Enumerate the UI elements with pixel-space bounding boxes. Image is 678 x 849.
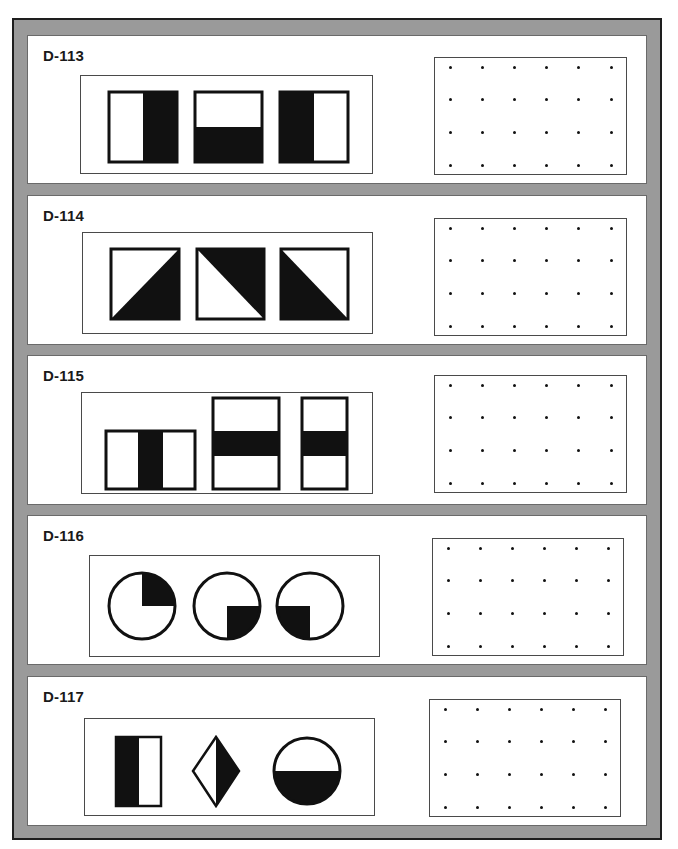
- grid-dot: [610, 325, 613, 328]
- grid-dot: [545, 131, 548, 134]
- tall-rect-horizontal-center-stripe-icon: [213, 398, 279, 489]
- grid-dot: [447, 612, 450, 615]
- grid-dot: [513, 292, 516, 295]
- grid-dot: [444, 773, 447, 776]
- grid-dot: [577, 482, 580, 485]
- grid-dot: [513, 384, 516, 387]
- grid-dot: [545, 66, 548, 69]
- square-lower-left-triangle-black-icon: [281, 249, 348, 319]
- model-shapes: [90, 556, 381, 658]
- dot-grid[interactable]: [429, 699, 621, 817]
- grid-dot: [449, 325, 452, 328]
- grid-dot: [449, 292, 452, 295]
- model-shapes: [83, 233, 374, 335]
- grid-dot: [476, 773, 479, 776]
- grid-dot: [481, 292, 484, 295]
- model-figure-box: [84, 718, 375, 816]
- grid-dot: [449, 259, 452, 262]
- grid-dot: [447, 547, 450, 550]
- grid-dot: [604, 773, 607, 776]
- rect-right-half-black-icon: [109, 92, 177, 162]
- grid-dot: [545, 292, 548, 295]
- exercise-label: D-114: [43, 207, 84, 224]
- grid-dot: [610, 416, 613, 419]
- dot-grid[interactable]: [434, 375, 627, 493]
- grid-dot: [447, 645, 450, 648]
- grid-dot: [577, 384, 580, 387]
- grid-dot: [511, 645, 514, 648]
- model-shapes: [85, 719, 376, 817]
- model-figure-box: [81, 392, 373, 494]
- grid-dot: [479, 645, 482, 648]
- grid-dot: [575, 612, 578, 615]
- grid-dot: [513, 66, 516, 69]
- grid-dot: [540, 740, 543, 743]
- grid-dot: [610, 259, 613, 262]
- exercise-panel-d116: D-116: [27, 515, 647, 665]
- grid-dot: [508, 708, 511, 711]
- circle-top-right-quadrant-black-icon: [109, 573, 175, 639]
- grid-dot: [604, 708, 607, 711]
- grid-dot: [540, 806, 543, 809]
- grid-dot: [449, 131, 452, 134]
- grid-dot: [508, 740, 511, 743]
- grid-dot: [545, 482, 548, 485]
- grid-dot: [513, 449, 516, 452]
- circle-bottom-half-black-icon: [274, 738, 340, 804]
- grid-dot: [610, 164, 613, 167]
- grid-dot: [543, 579, 546, 582]
- grid-dot: [511, 579, 514, 582]
- grid-dot: [540, 773, 543, 776]
- grid-dot: [481, 66, 484, 69]
- wide-rect-vertical-center-stripe-icon: [106, 431, 195, 489]
- grid-dot: [508, 773, 511, 776]
- grid-dot: [575, 579, 578, 582]
- grid-dot: [545, 164, 548, 167]
- grid-dot: [610, 227, 613, 230]
- exercise-panel-d115: D-115: [27, 355, 647, 505]
- grid-dot: [511, 612, 514, 615]
- grid-dot: [481, 98, 484, 101]
- grid-dot: [577, 325, 580, 328]
- grid-dot: [545, 98, 548, 101]
- grid-dot: [604, 806, 607, 809]
- grid-dot: [575, 547, 578, 550]
- narrow-rect-horizontal-center-stripe-icon: [302, 398, 347, 489]
- grid-dot: [476, 806, 479, 809]
- grid-dot: [572, 773, 575, 776]
- grid-dot: [449, 227, 452, 230]
- dot-grid[interactable]: [432, 538, 624, 656]
- grid-dot: [540, 708, 543, 711]
- circle-bottom-right-quadrant-black-icon: [194, 573, 260, 639]
- grid-dot: [577, 292, 580, 295]
- grid-dot: [545, 449, 548, 452]
- grid-dot: [577, 66, 580, 69]
- grid-dot: [476, 740, 479, 743]
- grid-dot: [543, 645, 546, 648]
- dot-grid[interactable]: [434, 218, 627, 336]
- grid-dot: [577, 416, 580, 419]
- grid-dot: [449, 66, 452, 69]
- grid-dot: [577, 449, 580, 452]
- grid-dot: [513, 164, 516, 167]
- grid-dot: [447, 579, 450, 582]
- grid-dot: [543, 612, 546, 615]
- grid-dot: [575, 645, 578, 648]
- rect-left-half-black-icon: [280, 92, 348, 162]
- exercise-panel-d117: D-117: [27, 676, 647, 826]
- dot-grid[interactable]: [434, 57, 627, 175]
- grid-dot: [604, 740, 607, 743]
- grid-dot: [610, 131, 613, 134]
- grid-dot: [479, 612, 482, 615]
- grid-dot: [481, 449, 484, 452]
- grid-dot: [545, 384, 548, 387]
- diamond-right-half-black-icon: [193, 737, 239, 806]
- model-figure-box: [82, 232, 373, 334]
- grid-dot: [449, 164, 452, 167]
- exercise-panel-d113: D-113: [27, 35, 647, 184]
- model-shapes: [81, 76, 374, 175]
- grid-dot: [479, 547, 482, 550]
- exercise-label: D-113: [43, 47, 84, 64]
- grid-dot: [607, 579, 610, 582]
- grid-dot: [610, 292, 613, 295]
